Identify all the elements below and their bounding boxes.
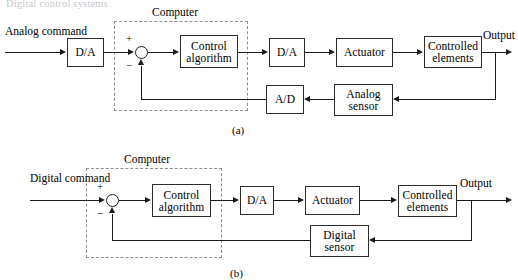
plus-sign-a: + [126, 33, 132, 44]
block-actuator-b: Actuator [305, 186, 360, 215]
arrowhead-controller-in-b [145, 197, 151, 203]
wire-feedback-drop-a [495, 52, 496, 100]
block-output-da-a-label: D/A [277, 47, 297, 59]
wire-actuator-to-plant-b [360, 200, 393, 201]
cropped-caption: Digital control systems [6, 0, 156, 9]
block-digital-sensor-b: Digital sensor [310, 225, 369, 257]
controlled-elements-b-line1: Controlled [402, 189, 452, 201]
wire-summer-riser-b [112, 214, 113, 241]
wire-sensor-to-summer-b [112, 240, 310, 241]
analog-sensor-a-line1: Analog [346, 88, 380, 100]
minus-sign-b: − [97, 208, 103, 219]
arrowhead-controller-in-a [173, 49, 179, 55]
arrowhead-da-in-b [233, 197, 239, 203]
arrowhead-summer-feedback-a [138, 59, 144, 65]
wire-da-to-actuator-a [305, 52, 331, 53]
arrowhead-output-a [506, 49, 512, 55]
block-analog-sensor-a: Analog sensor [334, 84, 393, 116]
panel-label-b: (b) [230, 268, 243, 279]
arrowhead-actuator-in-b [298, 197, 304, 203]
wire-input-to-da-a [5, 52, 61, 53]
arrowhead-input-da-a [60, 49, 66, 55]
block-da-b: D/A [240, 186, 274, 215]
control-algorithm-a-line1: Control [191, 40, 227, 52]
block-output-da-a: D/A [269, 38, 305, 67]
wire-actuator-to-plant-a [393, 52, 419, 53]
block-control-algorithm-b: Control algorithm [152, 184, 211, 217]
digital-command-line2: command [65, 172, 110, 184]
arrowhead-ad-in-a [304, 96, 310, 102]
wire-feedback-drop-b [471, 200, 472, 241]
arrowhead-summer-in-b [99, 197, 105, 203]
block-actuator-b-label: Actuator [312, 195, 353, 207]
minus-sign-a: − [126, 60, 132, 71]
analog-command-line2: command [42, 25, 87, 37]
block-da-b-label: D/A [247, 195, 267, 207]
figure-root: Digital control systems Computer Analog … [0, 0, 518, 280]
output-label-b: Output [460, 177, 492, 190]
block-actuator-a-label: Actuator [344, 47, 385, 59]
arrowhead-output-da-in-a [262, 49, 268, 55]
block-controlled-elements-b: Controlled elements [398, 185, 457, 217]
block-input-da-a-label: D/A [75, 47, 95, 59]
block-ad-a: A/D [266, 85, 304, 114]
control-algorithm-b-line1: Control [164, 189, 200, 201]
arrowhead-output-b [506, 197, 512, 203]
wire-summer-riser-a [141, 66, 142, 100]
summing-junction-a [135, 46, 148, 59]
digital-command-line1: Digital [30, 172, 62, 184]
arrowhead-sensor-in-b [369, 237, 375, 243]
analog-command-label-a: Analog command [5, 25, 87, 38]
arrowhead-plant-in-a [417, 49, 423, 55]
control-algorithm-a-line2: algorithm [186, 52, 232, 64]
wire-plant-output-b [457, 200, 508, 201]
panel-label-a: (a) [232, 125, 244, 136]
arrowhead-plant-in-b [391, 197, 397, 203]
block-input-da-a: D/A [67, 38, 104, 67]
control-algorithm-b-line2: algorithm [159, 201, 205, 213]
block-ad-a-label: A/D [275, 94, 295, 106]
arrowhead-summer-feedback-b [109, 207, 115, 213]
output-label-a: Output [483, 29, 515, 42]
wire-feedback-to-sensor-b [372, 240, 472, 241]
block-controlled-elements-a: Controlled elements [424, 36, 482, 68]
analog-sensor-a-line2: sensor [349, 100, 379, 112]
arrowhead-actuator-in-a [329, 49, 335, 55]
arrowhead-summer-in-a [128, 49, 134, 55]
block-control-algorithm-a: Control algorithm [180, 35, 238, 68]
wire-ad-to-summer-a [141, 99, 266, 100]
computer-label-b: Computer [124, 153, 170, 165]
controlled-elements-a-line1: Controlled [428, 40, 478, 52]
wire-controller-to-da-a [238, 52, 264, 53]
wire-da-to-actuator-b [274, 200, 300, 201]
wire-summer-to-controller-a [148, 52, 175, 53]
digital-sensor-b-line1: Digital [323, 229, 356, 241]
computer-label-a: Computer [152, 6, 198, 18]
wire-feedback-to-sensor-a [396, 99, 496, 100]
controlled-elements-b-line2: elements [407, 201, 449, 213]
wire-sensor-to-ad-a [307, 99, 334, 100]
wire-summer-to-controller-b [119, 200, 147, 201]
plus-sign-b: + [97, 181, 103, 192]
block-actuator-a: Actuator [336, 38, 393, 67]
wire-input-to-summer-b [30, 200, 101, 201]
arrowhead-sensor-in-a [393, 96, 399, 102]
wire-da-to-summer-a [104, 52, 130, 53]
controlled-elements-a-line2: elements [432, 52, 474, 64]
summing-junction-b [106, 194, 119, 207]
analog-command-line1: Analog [5, 25, 39, 37]
digital-sensor-b-line2: sensor [325, 241, 355, 253]
